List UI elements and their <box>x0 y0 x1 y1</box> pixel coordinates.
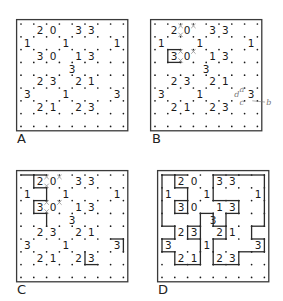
grid-dot <box>110 225 112 227</box>
grid-dot <box>20 126 22 128</box>
clue-number: 3 <box>184 75 191 87</box>
grid-dot <box>84 126 86 128</box>
grid-dot <box>167 74 169 76</box>
grid-dot <box>257 36 259 38</box>
grid-dot <box>33 49 35 51</box>
grid-dot <box>244 74 246 76</box>
grid-dot <box>84 277 86 279</box>
grid-dot <box>84 174 86 176</box>
grid-dot <box>244 23 246 25</box>
grid-dot <box>20 36 22 38</box>
grid-dot <box>59 264 61 266</box>
clue-number: 2 <box>37 226 44 238</box>
grid-dot <box>33 225 35 227</box>
grid-dot <box>33 87 35 89</box>
grid-dot <box>110 23 112 25</box>
grid-dot <box>123 62 125 64</box>
grid-dot <box>123 187 125 189</box>
grid-dot <box>84 113 86 115</box>
grid-dot <box>257 23 259 25</box>
clue-number: 3 <box>222 50 229 62</box>
grid-dot <box>167 100 169 102</box>
clue-number: 1 <box>114 37 121 49</box>
grid-dot <box>20 49 22 51</box>
grid-dot <box>20 213 22 215</box>
grid-dot <box>97 213 99 215</box>
grid-dot <box>218 100 220 102</box>
grid-dot <box>200 200 202 202</box>
grid-dot <box>193 23 195 25</box>
grid-dot <box>97 74 99 76</box>
grid-dot <box>84 225 86 227</box>
clue-number: 0 <box>184 24 191 36</box>
grid-dot <box>205 126 207 128</box>
grid-dot <box>193 74 195 76</box>
grid-dot <box>218 87 220 89</box>
grid-dot <box>20 225 22 227</box>
annotation-letter: c <box>239 98 244 107</box>
grid-dot <box>59 49 61 51</box>
clue-number: 0 <box>50 175 57 187</box>
grid-dot <box>231 49 233 51</box>
clue-number: 3 <box>88 50 95 62</box>
grid-dot <box>46 126 48 128</box>
clue-number: 1 <box>75 201 82 213</box>
grid-dot <box>218 113 220 115</box>
clue-number: 3 <box>255 239 262 251</box>
grid-dot <box>46 74 48 76</box>
clue-number: 2 <box>178 226 185 238</box>
grid-dot <box>154 113 156 115</box>
grid-dot <box>71 174 73 176</box>
grid-dot <box>123 213 125 215</box>
clue-number: 3 <box>171 50 178 62</box>
clue-number: 1 <box>229 226 236 238</box>
clue-number: 2 <box>75 252 82 264</box>
grid-dot <box>71 49 73 51</box>
grid-dot <box>46 87 48 89</box>
grid-dot <box>238 187 240 189</box>
clue-number: 1 <box>62 88 69 100</box>
grid-dot <box>123 126 125 128</box>
grid-dot <box>205 36 207 38</box>
grid-dot <box>33 251 35 253</box>
grid-dot <box>59 187 61 189</box>
grid-dot <box>33 23 35 25</box>
grid-dot <box>167 126 169 128</box>
grid-dot <box>205 87 207 89</box>
grid-dot <box>154 62 156 64</box>
grid-dot <box>180 113 182 115</box>
grid-dot <box>154 74 156 76</box>
grid-dot <box>154 100 156 102</box>
grid-dot <box>59 277 61 279</box>
grid-dot <box>257 87 259 89</box>
grid-dot <box>59 251 61 253</box>
clue-number: 1 <box>203 239 210 251</box>
grid-dot <box>110 126 112 128</box>
grid-dot <box>46 238 48 240</box>
clue-number: 3 <box>69 63 76 75</box>
clue-number: 2 <box>75 75 82 87</box>
clue-number: 3 <box>191 226 198 238</box>
grid-dot <box>46 113 48 115</box>
clue-number: 2 <box>37 24 44 36</box>
grid-dot <box>180 126 182 128</box>
grid-dot <box>110 251 112 253</box>
grid-dot <box>84 87 86 89</box>
clue-number: 1 <box>196 37 203 49</box>
clue-number: 1 <box>209 50 216 62</box>
grid-dot <box>59 174 61 176</box>
grid-dot <box>71 87 73 89</box>
grid-dot <box>205 49 207 51</box>
grid-dot <box>84 213 86 215</box>
clue-number: 3 <box>50 226 57 238</box>
panel-a: 20331113013323213132123 <box>16 19 128 131</box>
grid-dot <box>97 200 99 202</box>
grid-dot <box>187 277 189 279</box>
grid-dot <box>205 23 207 25</box>
clue-number: 3 <box>114 88 121 100</box>
grid-dot <box>84 49 86 51</box>
grid-dot <box>84 100 86 102</box>
grid-dot <box>231 87 233 89</box>
clue-number: 2 <box>37 75 44 87</box>
clue-number: 3 <box>75 175 82 187</box>
